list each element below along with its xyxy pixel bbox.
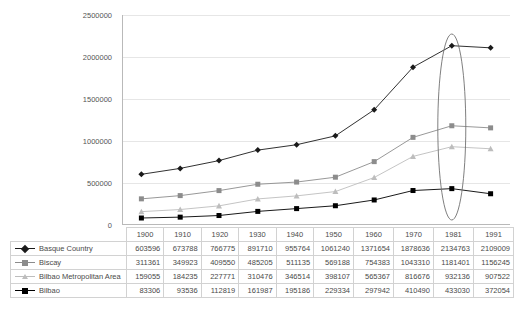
column-header-year: 1950 bbox=[314, 228, 354, 242]
data-point-marker bbox=[255, 182, 260, 187]
table-row: Bilbao8330693536112819161987195186229334… bbox=[11, 284, 514, 298]
table-cell-value: 2134763 bbox=[433, 242, 473, 256]
legend-diamond-icon bbox=[15, 244, 35, 253]
line-chart: 05000001000000150000020000002500000 bbox=[0, 0, 514, 227]
column-header-year: 1930 bbox=[239, 228, 276, 242]
data-point-marker bbox=[216, 158, 222, 164]
data-point-marker bbox=[294, 142, 300, 148]
column-header-year: 1991 bbox=[473, 228, 513, 242]
table-cell-value: 346514 bbox=[276, 270, 313, 284]
data-point-marker bbox=[255, 147, 261, 153]
data-point-marker bbox=[217, 188, 222, 193]
table-cell-value: 93536 bbox=[164, 284, 201, 298]
table-cell-value: 569188 bbox=[314, 256, 354, 270]
table-row: Basque Country60359667378876677589171095… bbox=[11, 242, 514, 256]
series-basque-country bbox=[138, 43, 493, 178]
data-point-marker bbox=[411, 188, 416, 193]
data-table: 1900191019201930194019501960197019811991… bbox=[10, 227, 514, 298]
column-header-year: 1920 bbox=[201, 228, 238, 242]
legend-entry-biscay[interactable]: Biscay bbox=[11, 256, 127, 270]
column-header-year: 1900 bbox=[126, 228, 163, 242]
data-point-marker bbox=[139, 196, 144, 201]
table-cell-value: 891710 bbox=[239, 242, 276, 256]
table-cell-value: 410490 bbox=[394, 284, 434, 298]
table-cell-value: 349923 bbox=[164, 256, 201, 270]
table-cell-value: 932136 bbox=[433, 270, 473, 284]
table-cell-value: 1043310 bbox=[394, 256, 434, 270]
legend-entry-basque-country[interactable]: Basque Country bbox=[11, 242, 127, 256]
legend-label: Bilbao Metropolitan Area bbox=[39, 272, 121, 281]
data-point-marker bbox=[178, 215, 183, 220]
column-header-year: 1981 bbox=[433, 228, 473, 242]
data-point-marker bbox=[488, 191, 493, 196]
chart-series-layer bbox=[0, 0, 514, 227]
series-bilbao bbox=[139, 186, 493, 220]
data-point-marker bbox=[177, 165, 183, 171]
data-point-marker bbox=[449, 123, 454, 128]
data-point-marker bbox=[372, 197, 377, 202]
table-cell-value: 433030 bbox=[433, 284, 473, 298]
table-cell-value: 2109009 bbox=[473, 242, 513, 256]
legend-square-icon bbox=[15, 286, 35, 295]
data-point-marker bbox=[449, 43, 455, 49]
table-cell-value: 673788 bbox=[164, 242, 201, 256]
data-point-marker bbox=[333, 203, 338, 208]
legend-square-icon bbox=[15, 258, 35, 267]
data-point-marker bbox=[139, 216, 144, 221]
table-cell-value: 1181401 bbox=[433, 256, 473, 270]
column-header-year: 1960 bbox=[354, 228, 394, 242]
column-header-year: 1970 bbox=[394, 228, 434, 242]
table-cell-value: 161987 bbox=[239, 284, 276, 298]
data-point-marker bbox=[178, 193, 183, 198]
data-point-marker bbox=[488, 45, 494, 51]
data-point-marker bbox=[372, 159, 377, 164]
table-cell-value: 816676 bbox=[394, 270, 434, 284]
table-cell-value: 1371654 bbox=[354, 242, 394, 256]
data-point-marker bbox=[294, 180, 299, 185]
legend-triangle-icon bbox=[15, 272, 35, 281]
table-cell-value: 766775 bbox=[201, 242, 238, 256]
table-cell-value: 511135 bbox=[276, 256, 313, 270]
data-point-marker bbox=[449, 186, 454, 191]
data-point-marker bbox=[411, 135, 416, 140]
table-cell-value: 184235 bbox=[164, 270, 201, 284]
data-point-marker bbox=[332, 133, 338, 139]
table-cell-value: 565367 bbox=[354, 270, 394, 284]
table-cell-value: 1156245 bbox=[473, 256, 513, 270]
series-line bbox=[141, 189, 490, 218]
table-cell-value: 227771 bbox=[201, 270, 238, 284]
table-cell-value: 1061240 bbox=[314, 242, 354, 256]
legend-entry-bilbao-metropolitan-area[interactable]: Bilbao Metropolitan Area bbox=[11, 270, 127, 284]
table-cell-value: 195186 bbox=[276, 284, 313, 298]
data-point-marker bbox=[488, 125, 493, 130]
data-point-marker bbox=[217, 213, 222, 218]
table-cell-value: 398107 bbox=[314, 270, 354, 284]
legend-label: Biscay bbox=[39, 258, 61, 267]
table-cell-value: 955764 bbox=[276, 242, 313, 256]
table-cell-value: 372054 bbox=[473, 284, 513, 298]
table-cell-value: 112819 bbox=[201, 284, 238, 298]
table-cell-value: 485205 bbox=[239, 256, 276, 270]
column-header-year: 1940 bbox=[276, 228, 313, 242]
table-cell-value: 310476 bbox=[239, 270, 276, 284]
data-point-marker bbox=[332, 189, 338, 195]
table-cell-value: 1878636 bbox=[394, 242, 434, 256]
table-row: Bilbao Metropolitan Area1590551842352277… bbox=[11, 270, 514, 284]
table-cell-value: 83306 bbox=[126, 284, 163, 298]
data-point-marker bbox=[333, 175, 338, 180]
table-cell-value: 409550 bbox=[201, 256, 238, 270]
table-header-row: 1900191019201930194019501960197019811991 bbox=[11, 228, 514, 242]
table-row: Biscay3113613499234095504852055111355691… bbox=[11, 256, 514, 270]
table-corner-cell bbox=[11, 228, 127, 242]
table-cell-value: 229334 bbox=[314, 284, 354, 298]
table-cell-value: 311361 bbox=[126, 256, 163, 270]
legend-label: Basque Country bbox=[39, 244, 93, 253]
table-cell-value: 754383 bbox=[354, 256, 394, 270]
chart-page: 05000001000000150000020000002500000 1900… bbox=[0, 0, 514, 309]
data-point-marker bbox=[294, 206, 299, 211]
column-header-year: 1910 bbox=[164, 228, 201, 242]
table-cell-value: 603596 bbox=[126, 242, 163, 256]
table-cell-value: 297942 bbox=[354, 284, 394, 298]
legend-entry-bilbao[interactable]: Bilbao bbox=[11, 284, 127, 298]
data-point-marker bbox=[371, 175, 377, 181]
